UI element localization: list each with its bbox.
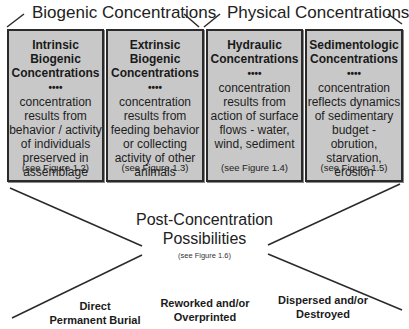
box-title: Extrinsic BiogenicConcentrations (108, 38, 202, 80)
figure-reference: (see Figure 1.2) (9, 162, 102, 173)
box-intrinsic-biogenic: Intrinsic BiogenicConcentrations •••• co… (7, 29, 104, 182)
box-hydraulic: HydraulicConcentrations •••• concentrati… (206, 29, 303, 182)
biogenic-bracket-left (7, 14, 24, 27)
outcome-dispersed: Dispersed and/orDestroyed (268, 293, 378, 321)
box-sedimentologic: SedimentologicConcentrations •••• concen… (305, 29, 403, 182)
box-title: Intrinsic BiogenicConcentrations (9, 38, 102, 80)
box-title: SedimentologicConcentrations (307, 38, 401, 66)
box-description: concentrationresults fromaction of surfa… (208, 81, 301, 151)
box-extrinsic-biogenic: Extrinsic BiogenicConcentrations •••• co… (106, 29, 204, 182)
outcome-direct-burial: DirectPermanent Burial (40, 299, 150, 327)
dots-separator: •••• (108, 83, 202, 93)
figure-reference: (see Figure 1.4) (208, 162, 301, 173)
figure-reference: (see Figure 1.3) (108, 162, 202, 173)
center-figure-reference: (see Figure 1.6) (0, 251, 409, 260)
group-title-physical: Physical Concentrations (227, 3, 409, 23)
outcome-reworked: Reworked and/orOverprinted (150, 296, 260, 324)
post-concentration-title: Post-ConcentrationPossibilities (0, 210, 409, 248)
dots-separator: •••• (307, 69, 401, 79)
dots-separator: •••• (208, 69, 301, 79)
dots-separator: •••• (9, 83, 102, 93)
figure-reference: (see Figure 1.5) (307, 162, 401, 173)
group-title-biogenic: Biogenic Concentrations (32, 3, 216, 23)
box-title: HydraulicConcentrations (208, 38, 301, 66)
